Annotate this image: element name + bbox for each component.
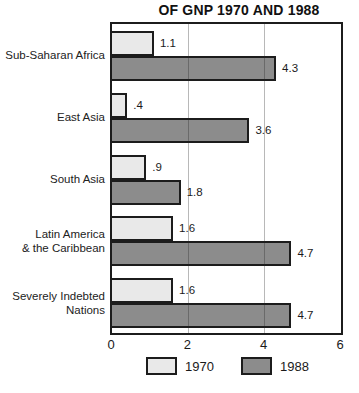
legend-swatch-1970 (146, 357, 177, 375)
value-label: 4.7 (297, 303, 313, 328)
category-label-line: Latin America (22, 228, 105, 242)
x-tick-label: 4 (251, 337, 277, 352)
value-label: 1.1 (160, 31, 176, 56)
x-tick-label: 2 (174, 337, 200, 352)
category-label-line: East Asia (57, 111, 105, 125)
bar-1988 (110, 118, 249, 143)
bar-group: South Asia.91.8 (112, 148, 341, 210)
x-tick-label: 0 (98, 337, 124, 352)
value-label: .4 (133, 93, 143, 118)
value-label: 4.7 (297, 241, 313, 266)
bar-1970 (110, 93, 127, 118)
category-label: Severely IndebtedNations (12, 290, 105, 317)
bar-1988 (110, 56, 276, 81)
bar-groups: Sub-Saharan Africa1.14.3East Asia.43.6So… (112, 24, 341, 333)
bar-1970 (110, 155, 146, 180)
category-label: East Asia (57, 111, 105, 125)
category-label-line: South Asia (50, 173, 105, 187)
gridline-x4 (264, 24, 265, 333)
bar-group: Latin America& the Caribbean1.64.7 (112, 209, 341, 271)
legend-swatch-1988 (241, 357, 272, 375)
chart-title: OF GNP 1970 AND 1988 (119, 2, 359, 18)
value-label: 1.8 (187, 180, 203, 205)
legend-label-1970: 1970 (185, 357, 214, 375)
category-label: Sub-Saharan Africa (5, 49, 105, 63)
plot-area: Sub-Saharan Africa1.14.3East Asia.43.6So… (110, 22, 343, 335)
bar-1970 (110, 216, 173, 241)
value-label: 3.6 (255, 118, 271, 143)
category-label: South Asia (50, 173, 105, 187)
bar-group: East Asia.43.6 (112, 86, 341, 148)
bar-1970 (110, 31, 154, 56)
value-label: .9 (152, 155, 162, 180)
category-label-line: Sub-Saharan Africa (5, 49, 105, 63)
category-label-line: & the Caribbean (22, 241, 105, 255)
bar-1988 (110, 180, 181, 205)
value-label: 1.6 (179, 216, 195, 241)
category-label-line: Nations (12, 303, 105, 317)
bar-group: Severely IndebtedNations1.64.7 (112, 271, 341, 333)
value-label: 4.3 (282, 56, 298, 81)
category-label-line: Severely Indebted (12, 290, 105, 304)
bar-group: Sub-Saharan Africa1.14.3 (112, 24, 341, 86)
bar-1970 (110, 278, 173, 303)
value-label: 1.6 (179, 278, 195, 303)
category-label: Latin America& the Caribbean (22, 228, 105, 255)
x-tick-label: 6 (327, 337, 353, 352)
chart-figure: OF GNP 1970 AND 1988 Sub-Saharan Africa1… (0, 0, 359, 393)
legend-label-1988: 1988 (280, 357, 309, 375)
